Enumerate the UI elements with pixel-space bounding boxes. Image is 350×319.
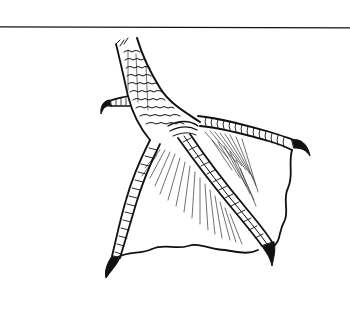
hind-toe bbox=[101, 96, 130, 114]
figure-canvas: webbed bird foot line drawing bbox=[0, 0, 350, 319]
right-toe bbox=[198, 116, 310, 156]
middle-toe bbox=[178, 134, 275, 266]
bird-foot-illustration bbox=[0, 0, 350, 319]
left-toe bbox=[105, 140, 160, 278]
web-right bbox=[205, 131, 292, 248]
tarsus bbox=[116, 38, 200, 140]
